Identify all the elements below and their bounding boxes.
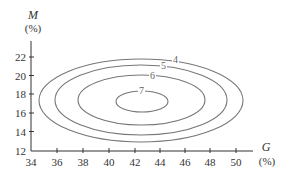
- x-tick-label: 36: [52, 156, 64, 168]
- contour-lines: [39, 59, 243, 142]
- contour-label-6: 6: [150, 70, 155, 81]
- contour-label-4: 4: [173, 54, 178, 65]
- y-tick-label: 14: [15, 126, 27, 138]
- contour-level-6: [78, 75, 205, 125]
- contour-label-5: 5: [161, 60, 166, 71]
- y-tick-label: 12: [15, 145, 26, 157]
- x-tick-label: 38: [78, 156, 90, 168]
- x-tick-label: 40: [104, 156, 116, 168]
- contour-label-7: 7: [139, 85, 144, 96]
- x-tick-label: 42: [130, 156, 141, 168]
- y-tick-label: 20: [15, 70, 27, 82]
- contour-chart: 22 20 18 16 14 12 34 36 38 40 42 44 46 4…: [0, 0, 287, 181]
- x-axis-unit: (%): [259, 155, 276, 168]
- y-axis-title: M: [27, 8, 39, 22]
- contour-level-4: [39, 59, 243, 142]
- x-tick-label: 34: [26, 156, 38, 168]
- y-tick-label: 16: [15, 107, 27, 119]
- x-tick-label: 46: [180, 156, 192, 168]
- x-tick-label: 44: [155, 156, 167, 168]
- y-tick-labels: 22 20 18 16 14 12: [15, 51, 27, 157]
- y-tick-label: 18: [15, 88, 27, 100]
- y-tick-label: 22: [15, 51, 26, 63]
- x-tick-label: 50: [231, 156, 243, 168]
- x-tick-labels: 34 36 38 40 42 44 46 48 50: [26, 156, 243, 168]
- y-axis-unit: (%): [25, 22, 42, 35]
- x-tick-label: 48: [205, 156, 217, 168]
- x-axis-title: G: [262, 140, 271, 154]
